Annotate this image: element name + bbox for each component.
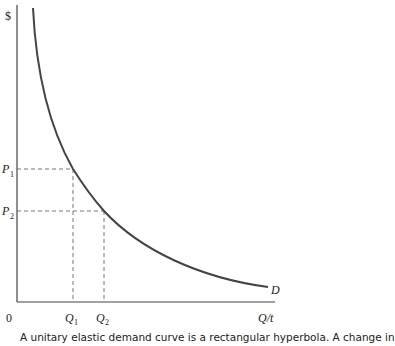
svg-text:Q: Q — [65, 311, 74, 325]
tick-p1: P 1 — [1, 162, 14, 179]
curve-label-d: D — [270, 283, 280, 297]
dashed-guides — [17, 169, 104, 302]
tick-q1: Q 1 — [65, 311, 78, 327]
svg-text:1: 1 — [10, 170, 14, 179]
svg-text:Q: Q — [96, 311, 105, 325]
tick-p2: P 2 — [1, 204, 14, 221]
svg-text:1: 1 — [74, 318, 78, 327]
svg-text:2: 2 — [10, 212, 14, 221]
y-axis-label: $ — [5, 9, 11, 23]
tick-q2: Q 2 — [96, 311, 109, 327]
svg-text:2: 2 — [105, 318, 109, 327]
demand-curve — [33, 8, 268, 287]
svg-text:P: P — [1, 204, 10, 218]
x-axis-label: Q/t — [258, 311, 274, 325]
svg-text:P: P — [1, 162, 10, 176]
figure-caption: A unitary elastic demand curve is a rect… — [20, 331, 350, 343]
origin-label: 0 — [6, 311, 12, 325]
